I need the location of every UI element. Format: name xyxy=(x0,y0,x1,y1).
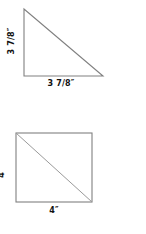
triangle-drawing xyxy=(0,0,146,117)
square-figure xyxy=(0,117,146,234)
triangle-outline xyxy=(24,9,103,76)
square-drawing xyxy=(0,117,146,234)
triangle-figure xyxy=(0,0,146,117)
triangle-height-label: 3 7/8″ xyxy=(8,21,16,61)
square-height-label: 4″ xyxy=(0,162,6,184)
square-base-label: 4″ xyxy=(36,207,72,215)
triangle-base-label: 3 7/8″ xyxy=(33,80,89,88)
geometry-figures-page: { "page": { "background_color": "#ffffff… xyxy=(0,0,146,234)
